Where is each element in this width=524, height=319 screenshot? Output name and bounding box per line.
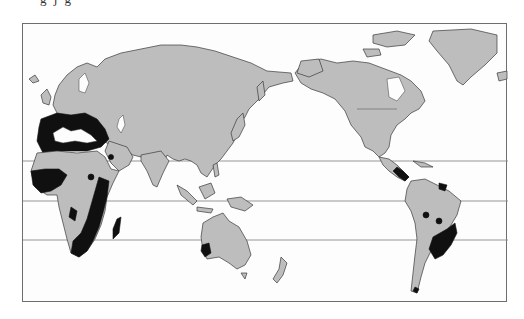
bolivia-spot (436, 218, 442, 224)
madagascar-highlight (113, 217, 121, 239)
cropped-caption-text: g j g (0, 0, 524, 5)
sumatra (177, 185, 197, 205)
iceland-east (497, 71, 507, 81)
arctic-islands (373, 31, 415, 47)
arctic-islands-2 (363, 49, 381, 57)
ethiopia-spot (88, 174, 94, 180)
iceland (29, 75, 39, 83)
world-map (22, 23, 507, 302)
philippines (213, 163, 219, 177)
greenland (429, 29, 497, 85)
borneo (199, 183, 215, 199)
peru-spot (423, 212, 429, 218)
map-canvas (23, 24, 508, 303)
british-isles (41, 89, 51, 105)
tasmania (241, 273, 247, 279)
java (197, 207, 213, 213)
caribbean-islands (413, 161, 433, 167)
indian-subcontinent (141, 151, 169, 187)
australia-landmass (201, 213, 251, 269)
arabia-spot (108, 154, 113, 159)
new-zealand (273, 257, 287, 283)
new-guinea (227, 197, 253, 211)
